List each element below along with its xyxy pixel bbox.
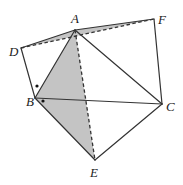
segment-AC [75,30,162,104]
segment-DB [21,48,35,98]
segment-FC [154,19,162,104]
vertex-label-B: B [26,94,34,109]
segment-AF [75,19,154,30]
dashed-segment-DF [21,19,154,48]
vertex-label-C: C [166,99,175,114]
angle-DBA-dot-icon [35,84,38,87]
shaded-triangle-ABE [35,30,95,160]
diagram-svg: ABCDEF [0,0,183,185]
vertex-label-A: A [70,11,79,26]
vertex-label-F: F [157,12,167,27]
vertex-label-E: E [89,165,98,180]
segment-EC [95,104,162,160]
vertex-label-D: D [8,44,19,59]
geometry-diagram: ABCDEF [0,0,183,185]
angle-ABE-dot-icon [41,99,44,102]
